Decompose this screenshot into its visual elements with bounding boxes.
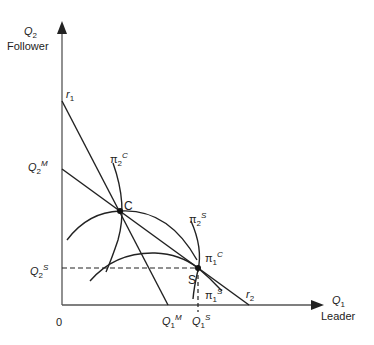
pi1s-label: π1S bbox=[205, 290, 222, 301]
y-axis-arrow-icon bbox=[57, 21, 67, 34]
q1s-label: Q1S bbox=[192, 316, 210, 327]
r1-reaction-line bbox=[62, 101, 168, 305]
q1m-label: Q1M bbox=[162, 316, 182, 327]
x-axis-caption: Leader bbox=[321, 311, 355, 322]
pi2c-label: π2C bbox=[110, 154, 128, 165]
y-axis-caption: Follower bbox=[7, 41, 49, 52]
point-s bbox=[195, 265, 201, 271]
stackelberg-diagram bbox=[0, 0, 374, 345]
pi2c-isoprofit-curve bbox=[106, 163, 122, 272]
point-c bbox=[117, 208, 123, 214]
r2-label: r2 bbox=[246, 289, 254, 300]
point-s-label: S bbox=[188, 274, 196, 286]
pi1s-isoprofit-curve bbox=[90, 253, 222, 291]
r1-label: r1 bbox=[66, 89, 74, 100]
q2s-label: Q2S bbox=[30, 266, 48, 277]
x-axis-arrow-icon bbox=[311, 300, 324, 310]
q2m-label: Q2M bbox=[28, 162, 48, 173]
x-axis-label: Q1 bbox=[332, 295, 345, 306]
pi2s-isoprofit-curve bbox=[191, 221, 199, 299]
r2-reaction-line bbox=[62, 169, 249, 305]
origin-label: 0 bbox=[56, 317, 62, 328]
y-axis-label: Q2 bbox=[24, 26, 37, 37]
point-c-label: C bbox=[124, 200, 133, 212]
pi2s-label: π2S bbox=[189, 214, 206, 225]
pi1c-label: π1C bbox=[205, 253, 223, 264]
